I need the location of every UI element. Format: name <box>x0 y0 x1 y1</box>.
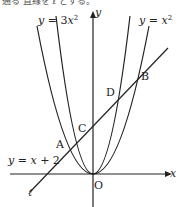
point-D-label: D <box>106 86 115 99</box>
label-line-l: ℓ <box>28 187 32 198</box>
label-parabola-3x2: y = 3x2 <box>37 14 78 27</box>
coordinate-diagram: y = 3x2 y = x2 y x O y = x + 2 ℓ A B C D <box>0 0 182 207</box>
x-axis-label: x <box>170 167 177 180</box>
origin-label: O <box>94 179 103 192</box>
y-axis-label: y <box>94 6 102 19</box>
point-B-label: B <box>141 70 149 83</box>
point-C-label: C <box>78 122 86 135</box>
point-A-label: A <box>55 138 65 151</box>
label-parabola-x2: y = x2 <box>138 14 172 27</box>
label-line-equation: y = x + 2 <box>7 154 60 167</box>
y-axis <box>90 11 96 207</box>
